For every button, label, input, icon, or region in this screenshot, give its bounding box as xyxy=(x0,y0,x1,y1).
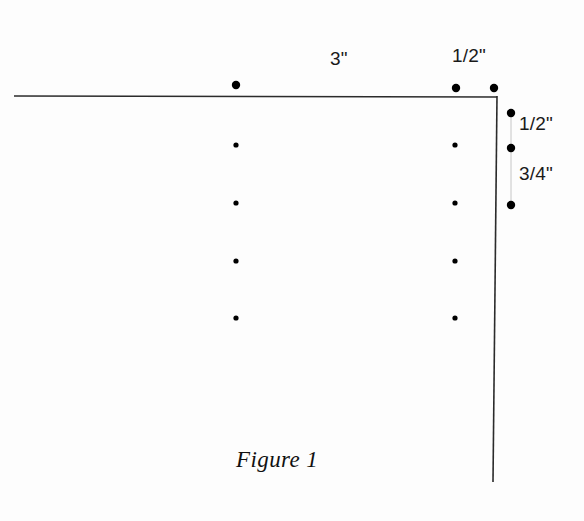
top-edge-hole-marker xyxy=(490,84,498,92)
right-edge-hole-marker xyxy=(507,201,515,209)
dimension-label-top-3in: 3" xyxy=(330,48,348,70)
interior-hole-marker xyxy=(233,315,238,320)
right-edge-hole-marker xyxy=(507,144,515,152)
dimension-label-side-half-inch: 1/2" xyxy=(519,113,553,135)
figure-canvas: 3" 1/2" 1/2" 3/4" Figure 1 xyxy=(0,0,584,521)
right-edge-hole-marker xyxy=(507,109,515,117)
outline-vertical-edge xyxy=(493,96,497,482)
figure-caption: Figure 1 xyxy=(236,447,318,473)
top-edge-hole-markers xyxy=(232,81,498,92)
figure-drawing xyxy=(0,0,584,521)
top-edge-hole-marker xyxy=(232,81,240,89)
outline-horizontal-edge xyxy=(14,96,497,97)
corner-profile-outline xyxy=(14,96,497,482)
interior-hole-marker xyxy=(452,142,457,147)
interior-hole-marker xyxy=(233,200,238,205)
interior-hole-markers xyxy=(233,142,457,320)
interior-hole-marker xyxy=(233,142,238,147)
interior-hole-marker xyxy=(452,200,457,205)
interior-hole-marker xyxy=(233,258,238,263)
interior-hole-marker xyxy=(452,258,457,263)
dimension-label-top-half-inch: 1/2" xyxy=(452,45,486,67)
top-edge-hole-marker xyxy=(452,84,460,92)
interior-hole-marker xyxy=(452,315,457,320)
dimension-label-side-three-quarter-inch: 3/4" xyxy=(519,163,553,185)
